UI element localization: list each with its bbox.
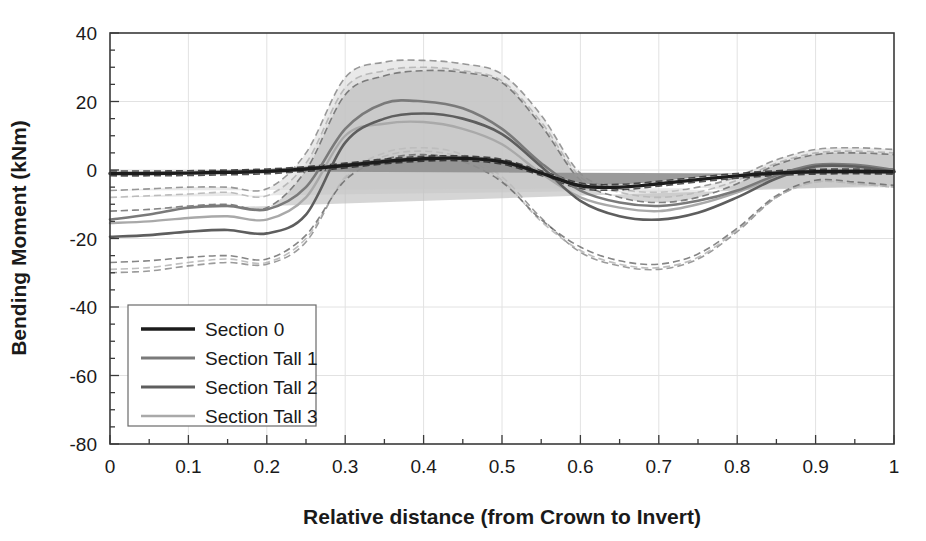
x-tick-label: 0.8 [724,456,750,477]
legend-label: Section Tall 3 [205,406,318,427]
x-tick-label: 0.7 [646,456,672,477]
x-tick-label: 0 [105,456,116,477]
y-tick-label: 0 [86,160,97,181]
y-tick-label: -20 [70,229,97,250]
bending-moment-chart: 00.10.20.30.40.50.60.70.80.91 40200-20-4… [0,0,926,541]
x-axis-title: Relative distance (from Crown to Invert) [303,505,701,528]
x-tick-label: 1 [889,456,900,477]
x-tick-label: 0.5 [489,456,515,477]
x-tick-label: 0.9 [802,456,828,477]
y-tick-label: 40 [76,23,97,44]
y-tick-label: 20 [76,92,97,113]
legend-label: Section 0 [205,319,284,340]
x-tick-label: 0.4 [410,456,437,477]
x-tick-label: 0.6 [567,456,593,477]
x-tick-label: 0.2 [254,456,280,477]
chart-figure: 00.10.20.30.40.50.60.70.80.91 40200-20-4… [0,0,926,541]
x-tick-label: 0.1 [175,456,201,477]
x-tick-label: 0.3 [332,456,358,477]
y-axis-title: Bending Moment (kNm) [7,120,30,356]
y-tick-label: -60 [70,366,97,387]
chart-legend: Section 0Section Tall 1Section Tall 2Sec… [128,305,318,427]
y-tick-label: -80 [70,434,97,455]
y-tick-label: -40 [70,297,97,318]
legend-label: Section Tall 1 [205,348,318,369]
legend-label: Section Tall 2 [205,377,318,398]
